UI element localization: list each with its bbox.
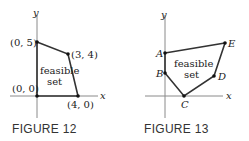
fig12-label-0-0: (0, 0) bbox=[12, 83, 39, 94]
fig12-caption: FIGURE 12 bbox=[12, 122, 77, 136]
fig12-point-0-0 bbox=[35, 94, 39, 98]
fig13-label-c: C bbox=[181, 99, 189, 110]
fig12-region-label-line1: feasible bbox=[40, 65, 80, 76]
fig13-point-b bbox=[163, 71, 167, 75]
figure-13: x y A B C D E feasible set FIGURE 13 bbox=[144, 9, 236, 136]
fig13-label-d: D bbox=[217, 71, 226, 82]
fig13-label-e: E bbox=[227, 38, 236, 49]
figure-12: x y (0, 5) (3, 4) (0, 0) (4, 0) feasible… bbox=[10, 7, 106, 136]
fig12-x-label: x bbox=[100, 90, 106, 101]
fig13-point-e bbox=[223, 41, 227, 45]
fig12-label-4-0: (4, 0) bbox=[67, 99, 94, 110]
fig12-point-4-0 bbox=[76, 94, 80, 98]
fig13-label-b: B bbox=[155, 68, 163, 79]
fig13-caption: FIGURE 13 bbox=[144, 122, 209, 136]
fig13-point-a bbox=[163, 51, 167, 55]
fig13-region-label-line2: set bbox=[184, 69, 199, 80]
fig13-point-c bbox=[182, 94, 186, 98]
fig13-point-d bbox=[212, 74, 216, 78]
fig12-label-0-5: (0, 5) bbox=[10, 37, 37, 48]
figures-canvas: x y (0, 5) (3, 4) (0, 0) (4, 0) feasible… bbox=[0, 0, 249, 141]
fig13-y-label: y bbox=[160, 9, 167, 20]
fig13-label-a: A bbox=[155, 48, 163, 59]
fig12-region-label-line2: set bbox=[47, 76, 62, 87]
fig12-point-3-4 bbox=[66, 52, 70, 56]
fig12-label-3-4: (3, 4) bbox=[71, 49, 98, 60]
fig13-x-label: x bbox=[226, 90, 232, 101]
fig12-y-label: y bbox=[32, 7, 39, 18]
fig13-region-label-line1: feasible bbox=[174, 58, 214, 69]
